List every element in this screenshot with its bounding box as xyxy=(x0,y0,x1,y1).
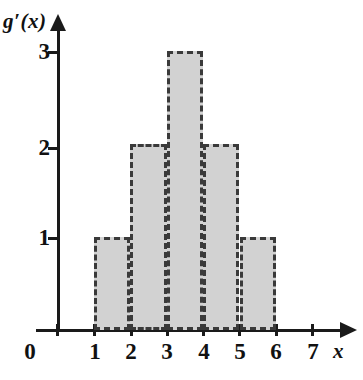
bar-5-to-6 xyxy=(240,237,276,330)
bars-layer xyxy=(0,0,363,380)
bar-4-to-5 xyxy=(203,144,239,330)
bar-3-to-4 xyxy=(167,51,203,331)
chart-figure: 3 2 1 0 1 2 3 4 5 6 7 g′(x) x xyxy=(0,0,363,380)
bar-2-to-3 xyxy=(130,144,166,330)
bar-1-to-2 xyxy=(94,237,130,330)
